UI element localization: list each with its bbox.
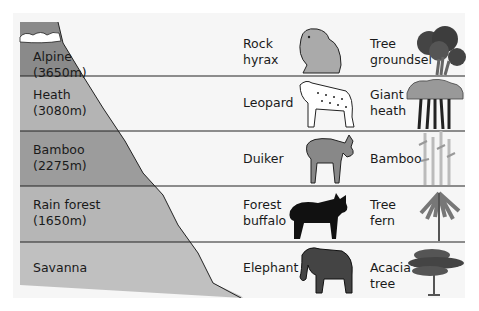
plant-label-acacia-tree: Acacia tree (370, 260, 411, 292)
animal-name-l1: Rock (243, 36, 279, 52)
zonation-diagram: Alpine (3650m) Rock hyrax Tree groundsel… (13, 13, 465, 298)
groundsel-icon (415, 21, 469, 77)
zone-altitude: (3650m) (33, 65, 87, 81)
animal-label-forest-buffalo: Forest buffalo (243, 197, 286, 229)
plant-label-giant-heath: Giant heath (370, 87, 406, 119)
plant-name-l1: Bamboo (370, 151, 422, 167)
animal-label-elephant: Elephant (243, 260, 298, 276)
zone-name: Bamboo (33, 142, 87, 158)
plant-name-l1: Tree (370, 197, 396, 213)
zone-label-savanna: Savanna (33, 260, 87, 276)
zone-label-bamboo: Bamboo (2275m) (33, 142, 87, 174)
duiker-icon (305, 133, 361, 185)
plant-name-l2: heath (370, 103, 406, 119)
animal-name-l2: buffalo (243, 213, 286, 229)
zone-name: Rain forest (33, 197, 100, 213)
acacia-icon (406, 245, 468, 297)
plant-label-tree-fern: Tree fern (370, 197, 396, 229)
plant-name-l1: Giant (370, 87, 406, 103)
zone-altitude: (2275m) (33, 158, 87, 174)
animal-label-leopard: Leopard (243, 95, 294, 111)
animal-name-l1: Leopard (243, 95, 294, 111)
plant-name-l1: Acacia (370, 260, 411, 276)
animal-name-l1: Forest (243, 197, 286, 213)
elephant-icon (296, 245, 354, 297)
zone-altitude: (1650m) (33, 213, 100, 229)
buffalo-icon (288, 191, 350, 241)
zone-name: Heath (33, 87, 87, 103)
plant-label-bamboo: Bamboo (370, 151, 422, 167)
bamboo-icon (417, 131, 457, 186)
leopard-icon (296, 77, 360, 131)
animal-label-rock-hyrax: Rock hyrax (243, 36, 279, 68)
giant-heath-icon (405, 77, 467, 131)
animal-name-l2: hyrax (243, 52, 279, 68)
zone-label-alpine: Alpine (3650m) (33, 49, 87, 81)
animal-label-duiker: Duiker (243, 151, 284, 167)
animal-name-l1: Elephant (243, 260, 298, 276)
plant-name-l2: tree (370, 276, 411, 292)
animal-name-l1: Duiker (243, 151, 284, 167)
zone-label-rain-forest: Rain forest (1650m) (33, 197, 100, 229)
plant-name-l2: fern (370, 213, 396, 229)
tree-fern-icon (417, 187, 461, 243)
zone-label-heath: Heath (3080m) (33, 87, 87, 119)
zone-name: Savanna (33, 260, 87, 276)
zone-name: Alpine (33, 49, 87, 65)
zone-altitude: (3080m) (33, 103, 87, 119)
hyrax-icon (293, 25, 347, 75)
